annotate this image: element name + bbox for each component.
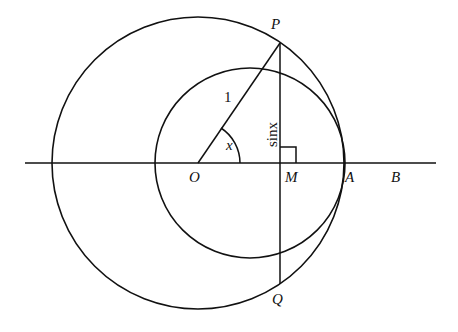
label-point-p: P xyxy=(271,17,280,32)
label-point-q: Q xyxy=(272,292,283,307)
diagram-canvas xyxy=(0,0,458,332)
label-point-m: M xyxy=(285,170,298,185)
label-point-b: B xyxy=(391,170,400,185)
label-radius-length: 1 xyxy=(224,90,232,105)
label-point-o: O xyxy=(189,170,200,185)
label-point-a: A xyxy=(345,170,354,185)
geometry-diagram: P Q O M A B 1 x sinx xyxy=(0,0,458,332)
label-sine-segment: sinx xyxy=(265,122,280,147)
label-angle-x: x xyxy=(226,138,233,153)
right-angle-marker-M xyxy=(280,147,296,163)
